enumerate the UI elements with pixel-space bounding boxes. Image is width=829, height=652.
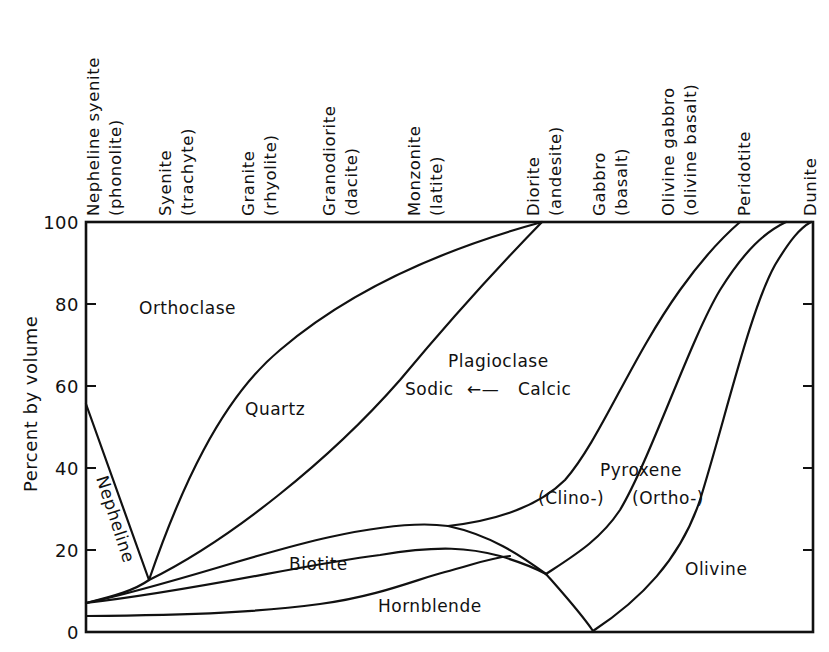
rock-sublabel-basalt: (basalt) — [612, 148, 631, 216]
label-sodic: Sodic — [405, 379, 454, 399]
tick-marks — [86, 304, 813, 550]
label-hornblende: Hornblende — [378, 596, 482, 616]
rock-label-diorite: Diorite — [524, 156, 543, 216]
y-tick-100: 100 — [43, 212, 79, 233]
rock-sublabel-dacite: (dacite) — [342, 147, 361, 216]
label-orthoclase: Orthoclase — [139, 298, 236, 318]
label-pyroxene: Pyroxene — [600, 460, 682, 480]
rock-label-olivine-gabbro: Olivine gabbro — [659, 87, 678, 216]
orthoclase-quartz-boundary — [149, 222, 542, 580]
rock-label-nepheline-syenite: Nepheline syenite — [84, 57, 103, 216]
y-tick-labels: 100 80 60 40 20 0 — [43, 212, 79, 643]
mineral-labels: Orthoclase Quartz Plagioclase Sodic ←— C… — [92, 298, 747, 616]
label-quartz: Quartz — [245, 399, 305, 419]
label-biotite: Biotite — [289, 554, 348, 574]
rock-sublabel-phonolite: (phonolite) — [106, 119, 125, 216]
clino-ortho-pyroxene-boundary — [546, 222, 786, 574]
rock-sublabel-trachyte: (trachyte) — [178, 128, 197, 216]
label-clino-pyroxene: (Clino-) — [538, 488, 604, 508]
y-tick-80: 80 — [55, 294, 79, 315]
rock-sublabel-olivine-basalt: (olivine basalt) — [681, 84, 700, 216]
rock-sublabel-latite: (latite) — [427, 156, 446, 216]
y-tick-20: 20 — [55, 540, 79, 561]
y-tick-0: 0 — [67, 622, 79, 643]
igneous-rock-composition-diagram: Nepheline syenite (phonolite) Syenite (t… — [0, 0, 829, 652]
rock-type-labels: Nepheline syenite (phonolite) Syenite (t… — [84, 57, 820, 216]
plagioclase-pyroxene-boundary — [448, 222, 740, 526]
label-nepheline: Nepheline — [92, 473, 139, 565]
rock-label-dunite: Dunite — [801, 158, 820, 216]
rock-label-monzonite: Monzonite — [405, 125, 424, 216]
rock-label-syenite: Syenite — [156, 150, 175, 216]
hornblende-end-boundary — [546, 574, 593, 631]
y-tick-60: 60 — [55, 376, 79, 397]
rock-label-gabbro: Gabbro — [590, 152, 609, 216]
rock-label-granite: Granite — [239, 150, 258, 216]
label-calcic: Calcic — [518, 379, 571, 399]
rock-sublabel-andesite: (andesite) — [546, 126, 565, 216]
sodic-calcic-arrow: ←— — [467, 379, 499, 399]
label-olivine: Olivine — [685, 559, 747, 579]
label-ortho-pyroxene: (Ortho-) — [632, 488, 704, 508]
rock-label-granodiorite: Granodiorite — [320, 105, 339, 216]
rock-sublabel-rhyolite: (rhyolite) — [261, 135, 280, 216]
y-tick-40: 40 — [55, 458, 79, 479]
label-plagioclase: Plagioclase — [448, 351, 549, 371]
rock-label-peridotite: Peridotite — [735, 131, 754, 216]
quartz-plagioclase-boundary — [86, 222, 542, 603]
y-axis-title: Percent by volume — [20, 316, 41, 492]
